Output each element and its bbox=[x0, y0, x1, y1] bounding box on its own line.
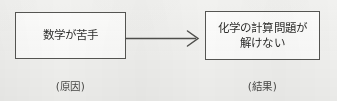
effect-node-box: 化学の計算問題が 解けない bbox=[205, 11, 320, 60]
cause-node-box: 数学が苦手 bbox=[15, 12, 126, 59]
effect-caption-label: (結果) bbox=[205, 78, 320, 93]
cause-effect-diagram: 数学が苦手 化学の計算問題が 解けない (原因) (結果) bbox=[0, 0, 337, 101]
cause-caption-label: (原因) bbox=[15, 78, 126, 93]
effect-node-text: 化学の計算問題が 解けない bbox=[218, 21, 308, 51]
cause-to-effect-arrow bbox=[124, 27, 204, 51]
cause-node-text: 数学が苦手 bbox=[43, 28, 99, 43]
